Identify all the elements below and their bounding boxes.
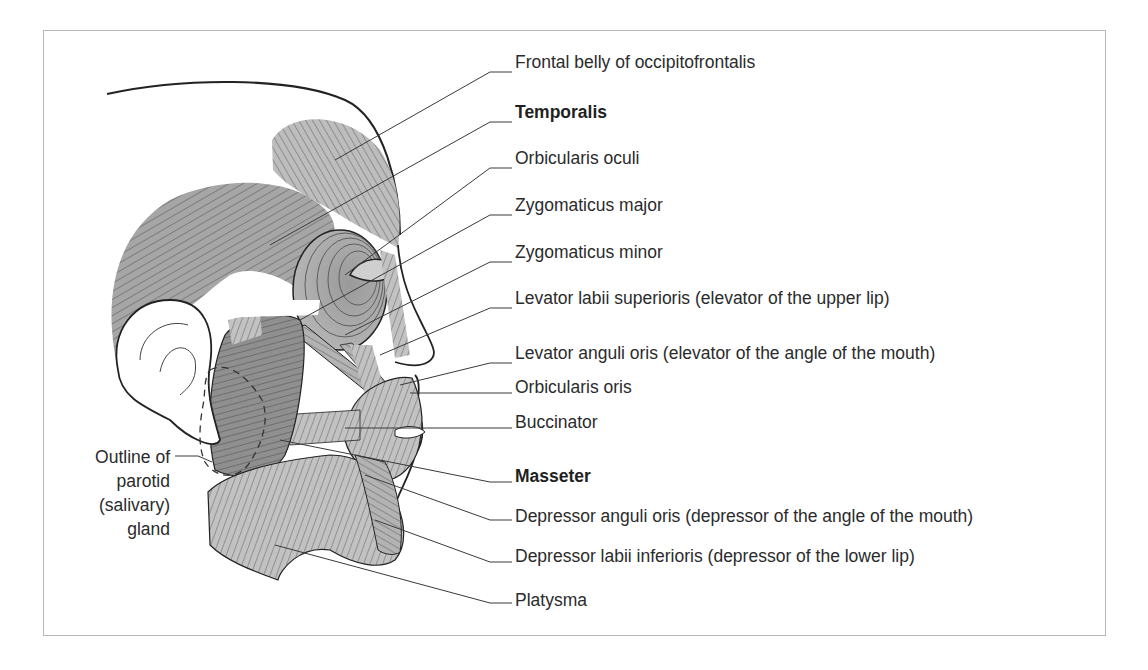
parotid-label-line-4: gland [60, 517, 170, 541]
label-frontal-belly: Frontal belly of occipitofrontalis [515, 52, 755, 72]
label-depressor-anguli-oris: Depressor anguli oris (depressor of the … [515, 506, 973, 526]
ear [117, 300, 220, 444]
parotid-label-line-3: (salivary) [60, 493, 170, 517]
parotid-label-line-1: Outline of [60, 445, 170, 469]
label-masseter: Masseter [515, 466, 591, 486]
label-temporalis: Temporalis [515, 102, 607, 122]
label-buccinator: Buccinator [515, 412, 598, 432]
label-zygomaticus-major: Zygomaticus major [515, 195, 663, 215]
masseter-muscle [210, 315, 304, 476]
label-depressor-labii-inferioris: Depressor labii inferioris (depressor of… [515, 546, 915, 566]
label-parotid-gland: Outline of parotid (salivary) gland [60, 445, 170, 541]
parotid-label-line-2: parotid [60, 469, 170, 493]
label-platysma: Platysma [515, 590, 587, 610]
label-orbicularis-oculi: Orbicularis oculi [515, 148, 639, 168]
label-zygomaticus-minor: Zygomaticus minor [515, 242, 663, 262]
label-levator-anguli-oris: Levator anguli oris (elevator of the ang… [515, 343, 935, 363]
label-orbicularis-oris: Orbicularis oris [515, 377, 632, 397]
face-muscles-illustration [0, 0, 1148, 670]
label-levator-labii-superioris: Levator labii superioris (elevator of th… [515, 288, 890, 308]
